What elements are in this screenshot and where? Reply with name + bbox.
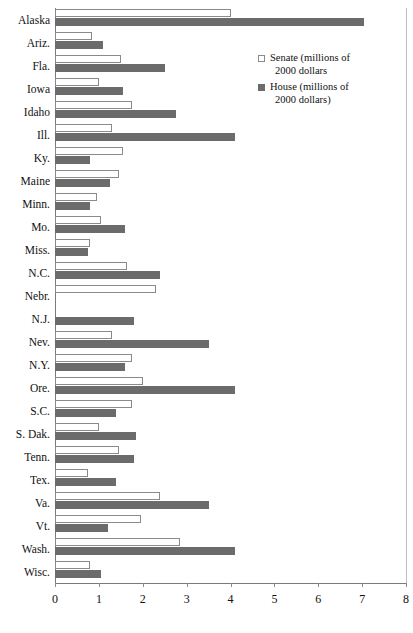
house-bar (55, 547, 235, 555)
bar-row: S. Dak. (0, 422, 413, 444)
senate-bar (55, 400, 132, 408)
senate-bar (55, 538, 180, 546)
x-axis-tick (55, 583, 56, 587)
senate-bar (55, 377, 143, 385)
bar-row: Tex. (0, 468, 413, 490)
category-label: Tenn. (0, 451, 50, 463)
house-bar (55, 432, 136, 440)
category-label: Nev. (0, 336, 50, 348)
house-bar (55, 18, 364, 26)
bar-row: Va. (0, 491, 413, 513)
senate-bar (55, 147, 123, 155)
legend-item: Senate (millions of2000 dollars (258, 52, 350, 77)
senate-bar (55, 101, 132, 109)
x-axis-tick (406, 583, 407, 587)
senate-bar (55, 170, 119, 178)
x-axis-tick (318, 583, 319, 587)
bar-row: Minn. (0, 192, 413, 214)
category-label: Idaho (0, 106, 50, 118)
senate-swatch-icon (258, 55, 265, 62)
house-bar (55, 156, 90, 164)
category-label: Mo. (0, 221, 50, 233)
bar-chart: AlaskaAriz.Fla.IowaIdahoIll.Ky.MaineMinn… (0, 0, 413, 633)
house-bar (55, 340, 209, 348)
category-label: N.J. (0, 313, 50, 325)
senate-bar (55, 55, 121, 63)
house-bar (55, 64, 165, 72)
bar-row: S.C. (0, 399, 413, 421)
bar-row: Nebr. (0, 284, 413, 306)
category-label: N.C. (0, 267, 50, 279)
house-swatch-icon (258, 84, 265, 91)
house-bar (55, 570, 101, 578)
senate-bar (55, 216, 101, 224)
legend-item: House (millions of2000 dollars) (258, 81, 350, 106)
category-label: Ariz. (0, 37, 50, 49)
category-label: Ore. (0, 382, 50, 394)
x-axis-tick-label: 6 (303, 592, 333, 607)
category-label: Va. (0, 497, 50, 509)
category-label: Vt. (0, 520, 50, 532)
category-label: Maine (0, 175, 50, 187)
house-bar (55, 87, 123, 95)
senate-bar (55, 561, 90, 569)
x-axis-tick-label: 2 (128, 592, 158, 607)
senate-bar (55, 492, 160, 500)
bar-row: Maine (0, 169, 413, 191)
bar-row: Vt. (0, 514, 413, 536)
bar-row: Miss. (0, 238, 413, 260)
bar-row: Tenn. (0, 445, 413, 467)
x-axis-tick-label: 5 (259, 592, 289, 607)
x-axis-tick (143, 583, 144, 587)
senate-bar (55, 423, 99, 431)
category-label: Ill. (0, 129, 50, 141)
legend-label-line2: 2000 dollars (270, 65, 350, 78)
house-bar (55, 524, 108, 532)
house-bar (55, 455, 134, 463)
house-bar (55, 179, 110, 187)
house-bar (55, 386, 235, 394)
bar-row: Nev. (0, 330, 413, 352)
x-axis-tick-label: 7 (347, 592, 377, 607)
category-label: Ky. (0, 152, 50, 164)
bar-row: N.J. (0, 307, 413, 329)
category-label: Nebr. (0, 290, 50, 302)
x-axis-tick-label: 4 (216, 592, 246, 607)
category-label: Fla. (0, 60, 50, 72)
house-bar (55, 202, 90, 210)
x-axis-tick-label: 8 (391, 592, 413, 607)
senate-bar (55, 354, 132, 362)
house-bar (55, 409, 116, 417)
chart-legend: Senate (millions of2000 dollarsHouse (mi… (258, 52, 350, 110)
x-axis-tick-label: 3 (172, 592, 202, 607)
category-label: Tex. (0, 474, 50, 486)
house-bar (55, 41, 103, 49)
bar-row: N.Y. (0, 353, 413, 375)
x-axis-tick (99, 583, 100, 587)
x-axis-tick (274, 583, 275, 587)
bar-row: Ore. (0, 376, 413, 398)
senate-bar (55, 9, 231, 17)
bar-row: Idaho (0, 100, 413, 122)
house-bar (55, 317, 134, 325)
x-axis-tick-label: 1 (84, 592, 114, 607)
house-bar (55, 478, 116, 486)
category-label: S.C. (0, 405, 50, 417)
category-label: Wisc. (0, 566, 50, 578)
bar-row: Mo. (0, 215, 413, 237)
legend-label-line2: 2000 dollars) (270, 94, 350, 107)
x-axis-tick (231, 583, 232, 587)
bar-row: Iowa (0, 77, 413, 99)
house-bar (55, 110, 176, 118)
bar-row: Ariz. (0, 31, 413, 53)
senate-bar (55, 78, 99, 86)
category-label: Wash. (0, 543, 50, 555)
house-bar (55, 363, 125, 371)
bar-row: Ill. (0, 123, 413, 145)
senate-bar (55, 32, 92, 40)
category-label: Miss. (0, 244, 50, 256)
bar-row: Wash. (0, 537, 413, 559)
category-label: Iowa (0, 83, 50, 95)
category-label: Minn. (0, 198, 50, 210)
senate-bar (55, 469, 88, 477)
